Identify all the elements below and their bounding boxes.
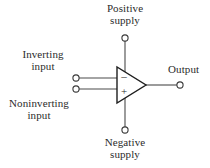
positive-supply-terminal <box>122 35 128 41</box>
label-positive-supply: Positive supply <box>60 2 190 26</box>
label-noninverting-input-line2: input <box>2 109 76 121</box>
label-positive-supply-line1: Positive <box>60 2 190 14</box>
label-output-text: Output <box>168 63 210 75</box>
label-noninverting-input: Noninverting input <box>2 97 76 121</box>
op-amp-schematic-figure: – + Positive supply Negative supply Inve… <box>0 0 210 168</box>
label-inverting-input: Inverting input <box>10 48 76 72</box>
label-positive-supply-line2: supply <box>60 14 190 26</box>
noninverting-sign-plus: + <box>121 85 127 97</box>
label-inverting-input-line1: Inverting <box>10 48 76 60</box>
negative-supply-terminal <box>122 127 128 133</box>
label-noninverting-input-line1: Noninverting <box>2 97 76 109</box>
label-negative-supply-line1: Negative <box>60 136 190 148</box>
label-negative-supply-line2: supply <box>60 148 190 160</box>
inverting-sign-minus: – <box>120 70 127 82</box>
inverting-input-terminal <box>73 75 79 81</box>
noninverting-input-terminal <box>73 86 79 92</box>
label-inverting-input-line2: input <box>10 60 76 72</box>
label-negative-supply: Negative supply <box>60 136 190 160</box>
output-terminal <box>177 82 183 88</box>
label-output: Output <box>168 63 210 75</box>
